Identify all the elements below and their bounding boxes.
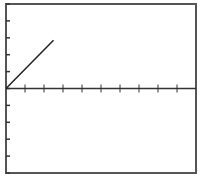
plot-background [0,0,200,181]
line-chart [0,0,200,181]
